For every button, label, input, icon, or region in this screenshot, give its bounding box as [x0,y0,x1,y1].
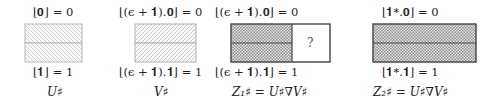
panel-z2-top-label: ⌊𝟏*.𝟎⌋ = 0 [382,7,439,19]
panel-u-top-label: ⌊𝟎⌋ = 0 [33,7,73,19]
panel-z2-bottom-label: ⌊𝟏*.𝟏⌋ = 1 [382,67,439,79]
panel-u-cell-row-0 [25,24,82,43]
panel-u-bottom-label: ⌊𝟏⌋ = 1 [33,67,73,79]
panel-z1-bottom-label: ⌊(ϵ + 𝟏).𝟏⌋ = 1 [215,67,298,79]
panel-u-caption: U♯ [47,86,63,98]
panel-z1-box [231,24,330,62]
panel-u-box [25,24,82,62]
panel-v-cell-row-0 [135,24,196,43]
panel-u-cell-row-1 [25,43,82,62]
panel-z2-caption: Z₂♯ = U♯∇V♯ [373,86,448,98]
panel-z1-cell-row-1 [231,43,292,62]
panel-z2-cell-row-0 [373,24,476,43]
panel-z1-top-label: ⌊(ϵ + 𝟏).𝟎⌋ = 0 [215,7,298,19]
panel-v-caption: V♯ [154,86,168,98]
panel-v-bottom-label: ⌊(ϵ + 𝟏).𝟏⌋ = 1 [119,67,202,79]
panel-v-top-label: ⌊(ϵ + 𝟏).𝟎⌋ = 0 [119,7,202,19]
panel-z1-unknown-mark: ? [307,37,313,49]
panel-z2-cell-row-1 [373,43,476,62]
panel-z2-box [373,24,476,62]
panel-z1-cell-row-0 [231,24,292,43]
panel-v-box [135,24,196,62]
panel-v-cell-row-1 [135,43,196,62]
panel-z1-caption: Z₁♯ = U♯∇V♯ [232,86,307,98]
